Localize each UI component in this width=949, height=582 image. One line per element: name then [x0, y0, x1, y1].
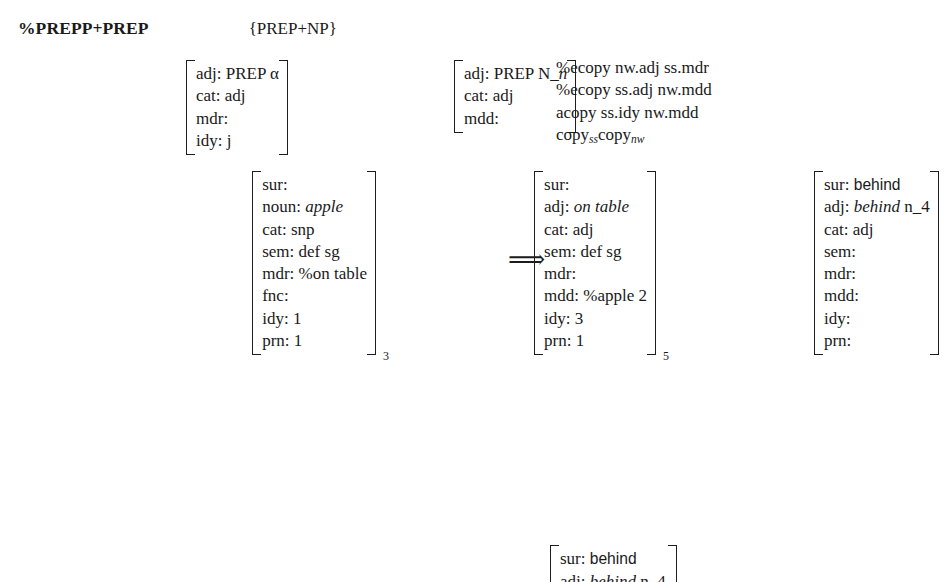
field-value: 1: [293, 309, 302, 328]
feature-row: noun: apple: [262, 196, 367, 218]
feature-row: idy: 3: [544, 308, 647, 330]
field-value: adj: [225, 86, 246, 105]
field-attribute: sem:: [544, 242, 576, 261]
field-attribute: mdr:: [262, 264, 294, 283]
field-value: PREP α: [226, 64, 279, 83]
right-bracket-icon: [647, 171, 656, 355]
field-attribute: cat:: [544, 220, 569, 239]
field-attribute: adj:: [560, 572, 586, 582]
matrix-body: adj: PREP N_ncat: adjmdd:: [454, 60, 576, 133]
field-attribute: sur:: [262, 175, 288, 194]
feature-row: idy: j: [196, 130, 279, 152]
copy-ss-subscript: ss: [589, 133, 598, 145]
matrix-body: sur: behindadj: behind n_4cat: adjsem:md…: [550, 545, 677, 582]
matrix-host: adj: PREP αcat: adjmdr:idy: jadj: PREP N…: [0, 0, 949, 369]
feature-row: prn:: [824, 330, 930, 352]
field-attribute: prn:: [544, 331, 571, 350]
left-bracket-icon: [550, 545, 559, 582]
feature-row: sur: behind: [824, 174, 930, 196]
pattern-matrix: adj: PREP αcat: adjmdr:idy: j: [186, 60, 288, 155]
field-attribute: mdd:: [544, 286, 579, 305]
feature-row: cat: adj: [196, 85, 279, 107]
operation-line: acopy ss.idy nw.mdd: [556, 102, 712, 124]
right-bracket-icon: [279, 60, 288, 155]
feature-row: sem:: [824, 241, 930, 263]
feature-row: mdr: %on table: [262, 263, 367, 285]
field-attribute: sur:: [544, 175, 570, 194]
feature-row: mdr:: [544, 263, 647, 285]
field-attribute: idy:: [196, 131, 222, 150]
feature-row: sem: def sg: [544, 241, 647, 263]
field-attribute: fnc:: [262, 286, 288, 305]
field-attribute: cat:: [262, 220, 287, 239]
field-attribute: adj:: [824, 197, 850, 216]
input-matrix: sur:adj: on tablecat: adjsem: def sgmdr:…: [534, 171, 656, 355]
input-matrix: sur:noun: applecat: snpsem: def sgmdr: %…: [252, 171, 376, 355]
feature-row: adj: behind n_4: [824, 196, 930, 218]
feature-row: cat: adj: [464, 85, 567, 107]
field-attribute: sem:: [262, 242, 294, 261]
field-value: behind: [590, 550, 637, 567]
field-value: behind n_4: [590, 572, 666, 582]
matrix-body: adj: PREP αcat: adjmdr:idy: j: [186, 60, 288, 155]
field-value: j: [227, 131, 232, 150]
feature-row: cat: adj: [824, 219, 930, 241]
feature-row: prn: 1: [262, 330, 367, 352]
field-value: %on table: [299, 264, 367, 283]
feature-row: cat: adj: [544, 219, 647, 241]
field-attribute: mdd:: [464, 109, 499, 128]
rule-header: %PREPP+PREP {PREP+NP}: [18, 18, 337, 39]
feature-row: adj: behind n_4: [560, 571, 668, 582]
field-attribute: noun:: [262, 197, 301, 216]
left-bracket-icon: [814, 171, 823, 355]
operations-block: %ecopy nw.adj ss.mdr %ecopy ss.adj nw.md…: [556, 57, 712, 148]
field-attribute: prn:: [262, 331, 289, 350]
field-attribute: sem:: [824, 242, 856, 261]
field-attribute: cat:: [196, 86, 221, 105]
field-value: adj: [853, 220, 874, 239]
feature-row: sur:: [262, 174, 367, 196]
matrix-subscript: 5: [663, 350, 669, 362]
input-matrix: sur: behindadj: behind n_4cat: adjsem:md…: [814, 171, 939, 355]
feature-row: mdd:: [824, 285, 930, 307]
pattern-matrix: adj: PREP N_ncat: adjmdd:: [454, 60, 576, 133]
field-attribute: adj:: [196, 64, 222, 83]
feature-row: fnc:: [262, 285, 367, 307]
rule-name: %PREPP+PREP: [18, 18, 149, 39]
right-bracket-icon: [367, 171, 376, 355]
left-bracket-icon: [252, 171, 261, 355]
field-attribute: prn:: [824, 331, 851, 350]
field-attribute: adj:: [464, 64, 490, 83]
field-value: behind n_4: [854, 197, 930, 216]
copy-nw-base: copy: [598, 125, 631, 144]
field-attribute: cat:: [824, 220, 849, 239]
field-value: apple: [305, 197, 343, 216]
field-attribute: adj:: [544, 197, 570, 216]
right-bracket-icon: [567, 60, 576, 133]
feature-row: cat: snp: [262, 219, 367, 241]
feature-row: idy:: [824, 308, 930, 330]
field-attribute: mdr:: [196, 109, 228, 128]
feature-row: mdd:: [464, 108, 567, 130]
field-value: snp: [291, 220, 315, 239]
operation-line: %ecopy nw.adj ss.mdr: [556, 57, 712, 79]
field-value: behind: [854, 176, 901, 193]
feature-row: prn: 1: [544, 330, 647, 352]
copy-nw-subscript: nw: [631, 133, 644, 145]
field-value: def sg: [580, 242, 621, 261]
feature-row: adj: on table: [544, 196, 647, 218]
field-attribute: idy:: [824, 309, 850, 328]
operation-line: %ecopy ss.adj nw.mdd: [556, 79, 712, 101]
field-attribute: mdr:: [544, 264, 576, 283]
matrix-body: sur:noun: applecat: snpsem: def sgmdr: %…: [252, 171, 376, 355]
field-attribute: idy:: [544, 309, 570, 328]
field-attribute: idy:: [262, 309, 288, 328]
field-value: 1: [576, 331, 585, 350]
field-attribute: mdd:: [824, 286, 859, 305]
field-attribute: sur:: [560, 549, 586, 568]
output-matrix: sur: behindadj: behind n_4cat: adjsem:md…: [550, 545, 677, 582]
feature-row: adj: PREP α: [196, 63, 279, 85]
matrix-body: sur: behindadj: behind n_4cat: adjsem:md…: [814, 171, 939, 355]
right-bracket-icon: [930, 171, 939, 355]
field-value: PREP N_n: [494, 64, 568, 83]
